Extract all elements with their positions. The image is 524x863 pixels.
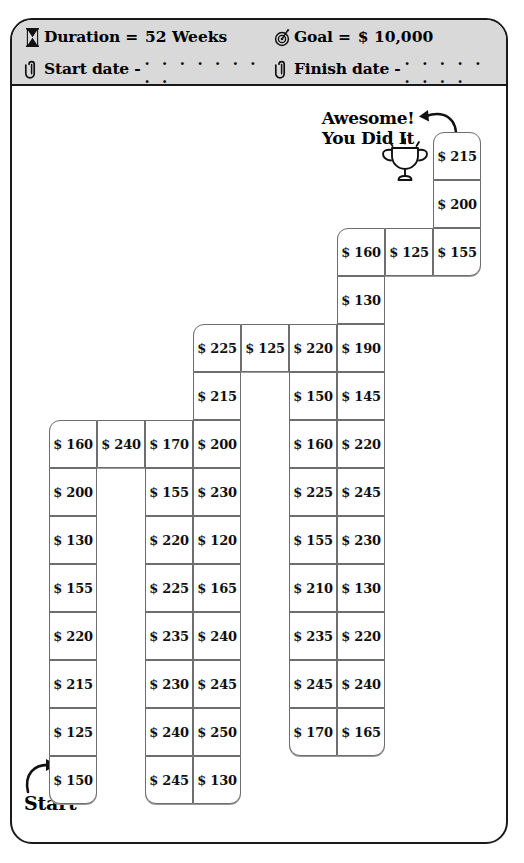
money-cell[interactable]: $ 230 [193,468,241,516]
money-cell[interactable]: $ 200 [49,468,97,516]
money-cell[interactable]: $ 215 [433,132,481,180]
money-cell-amount: $ 230 [197,485,237,500]
money-cell[interactable]: $ 145 [337,372,385,420]
start-date-input[interactable]: . . . . . . . . . [144,51,270,87]
money-cell[interactable]: $ 130 [49,516,97,564]
money-cell-amount: $ 225 [149,581,189,596]
money-cell[interactable]: $ 150 [49,756,97,804]
money-cell[interactable]: $ 220 [289,324,337,372]
paperclip-icon [274,59,291,80]
money-cell[interactable]: $ 235 [289,612,337,660]
savings-board: Awesome! You Did It [12,86,506,842]
money-cell[interactable]: $ 125 [49,708,97,756]
money-cell-amount: $ 155 [437,245,477,260]
money-cell-amount: $ 130 [197,773,237,788]
header-row-bottom: Start date - . . . . . . . . . Finish da… [12,52,506,85]
money-cell-amount: $ 200 [53,485,93,500]
money-cell-amount: $ 220 [293,341,333,356]
money-cell[interactable]: $ 250 [193,708,241,756]
money-cell-amount: $ 170 [149,437,189,452]
money-cell[interactable]: $ 130 [337,276,385,324]
money-cell[interactable]: $ 160 [337,228,385,276]
money-cell-amount: $ 245 [197,677,237,692]
money-cell[interactable]: $ 155 [433,228,481,276]
money-cell[interactable]: $ 240 [145,708,193,756]
target-icon [274,27,291,48]
money-cell[interactable]: $ 245 [193,660,241,708]
money-cell[interactable]: $ 225 [289,468,337,516]
money-cell-amount: $ 150 [293,389,333,404]
money-cell-amount: $ 240 [101,437,141,452]
money-cell-amount: $ 220 [53,629,93,644]
money-cell-amount: $ 155 [149,485,189,500]
money-cell[interactable]: $ 220 [337,612,385,660]
money-cell-amount: $ 220 [149,533,189,548]
finish-date-field: Finish date - . . . . . . . . . [270,51,500,87]
money-cell[interactable]: $ 215 [49,660,97,708]
money-cell[interactable]: $ 160 [49,420,97,468]
money-cell-amount: $ 150 [53,773,93,788]
money-cell-amount: $ 145 [341,389,381,404]
money-cell[interactable]: $ 225 [193,324,241,372]
money-cell-amount: $ 240 [197,629,237,644]
start-date-field: Start date - . . . . . . . . . [12,51,270,87]
money-cell-amount: $ 170 [293,725,333,740]
money-cell[interactable]: $ 220 [49,612,97,660]
money-cell[interactable]: $ 245 [289,660,337,708]
money-cell-amount: $ 225 [197,341,237,356]
money-cell-amount: $ 125 [389,245,429,260]
money-cell[interactable]: $ 200 [193,420,241,468]
goal-label: Goal = [294,27,351,46]
page-root: Duration = 52 Weeks Goal = [0,0,524,863]
money-cell[interactable]: $ 165 [193,564,241,612]
money-cell-amount: $ 210 [293,581,333,596]
money-cell[interactable]: $ 125 [385,228,433,276]
money-cell[interactable]: $ 160 [289,420,337,468]
money-cell[interactable]: $ 125 [241,324,289,372]
money-cell-amount: $ 130 [341,581,381,596]
money-cell-amount: $ 215 [53,677,93,692]
money-cell-amount: $ 245 [293,677,333,692]
money-cell[interactable]: $ 155 [289,516,337,564]
money-cell[interactable]: $ 130 [193,756,241,804]
money-cell-amount: $ 125 [53,725,93,740]
money-cell[interactable]: $ 165 [337,708,385,756]
goal-value[interactable]: $ 10,000 [358,27,434,46]
money-cell[interactable]: $ 200 [433,180,481,228]
money-cell[interactable]: $ 170 [289,708,337,756]
money-cell[interactable]: $ 240 [193,612,241,660]
money-cell[interactable]: $ 240 [337,660,385,708]
money-cell[interactable]: $ 170 [145,420,193,468]
money-cell-amount: $ 230 [341,533,381,548]
money-cell[interactable]: $ 190 [337,324,385,372]
finish-date-input[interactable]: . . . . . . . . . [405,51,500,87]
money-cell[interactable]: $ 240 [97,420,145,468]
money-cell[interactable]: $ 235 [145,612,193,660]
money-cell[interactable]: $ 130 [337,564,385,612]
money-cell[interactable]: $ 230 [145,660,193,708]
finish-date-label: Finish date - [294,59,401,78]
duration-value[interactable]: 52 Weeks [145,27,227,46]
money-cell-amount: $ 160 [341,245,381,260]
money-cell[interactable]: $ 230 [337,516,385,564]
goal-field: Goal = $ 10,000 [270,26,500,47]
paperclip-icon [24,59,41,80]
money-cell[interactable]: $ 155 [49,564,97,612]
money-cell[interactable]: $ 225 [145,564,193,612]
money-cell[interactable]: $ 220 [145,516,193,564]
money-cell-amount: $ 235 [149,629,189,644]
money-cell[interactable]: $ 245 [145,756,193,804]
money-cell[interactable]: $ 245 [337,468,385,516]
money-cell[interactable]: $ 215 [193,372,241,420]
money-cell[interactable]: $ 210 [289,564,337,612]
money-cell-amount: $ 165 [341,725,381,740]
money-cell-amount: $ 160 [53,437,93,452]
money-cell[interactable]: $ 120 [193,516,241,564]
money-cell-amount: $ 235 [293,629,333,644]
money-cell-amount: $ 200 [197,437,237,452]
money-cell[interactable]: $ 155 [145,468,193,516]
money-cell[interactable]: $ 150 [289,372,337,420]
money-cell[interactable]: $ 220 [337,420,385,468]
money-cell-amount: $ 130 [341,293,381,308]
money-cell-amount: $ 220 [341,437,381,452]
